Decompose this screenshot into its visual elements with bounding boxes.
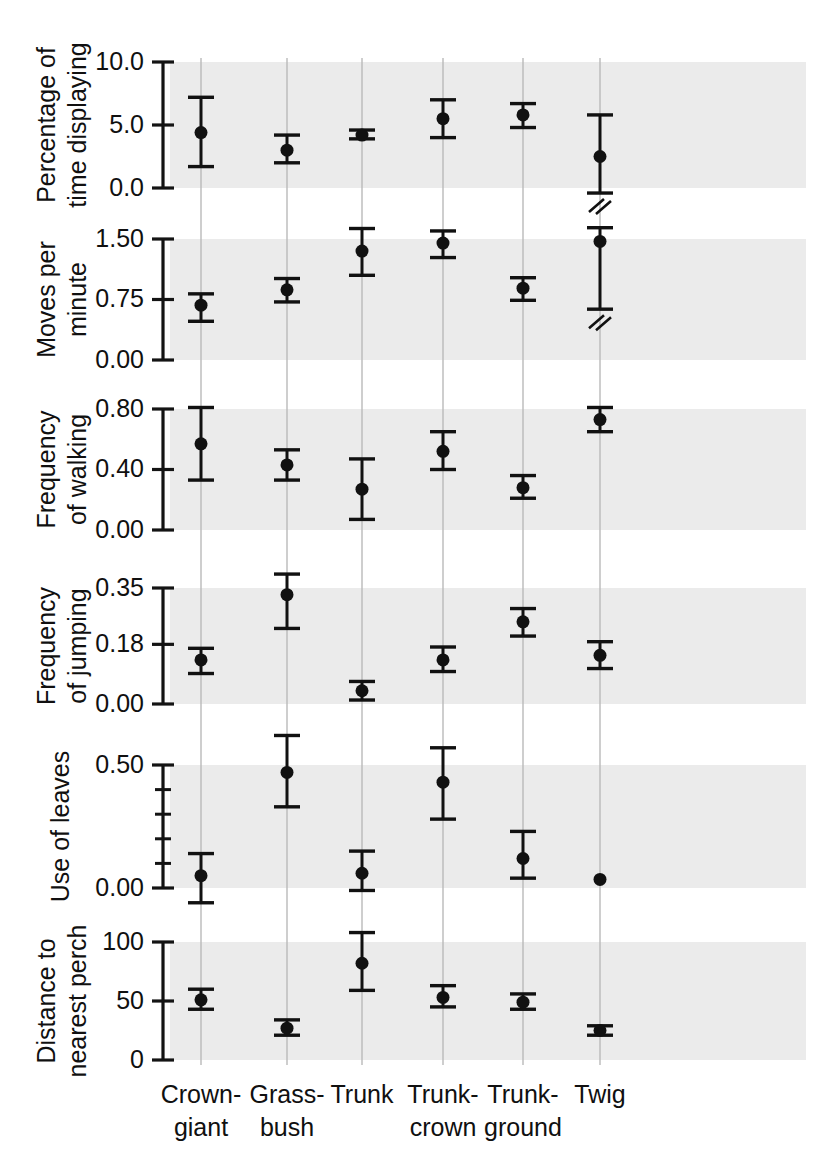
panel-1-point-trunk-ground-marker: [517, 282, 530, 295]
panel-3-point-trunk-marker: [356, 684, 369, 697]
panel-band-4: [170, 765, 806, 888]
panel-5-ylabel-line-1: nearest perch: [63, 925, 91, 1078]
panel-3-ylabel-line-0: Frequency: [32, 586, 60, 705]
panel-3-ytick-label-2: 0.35: [95, 573, 144, 601]
panel-4-ylabel-line-0: Use of leaves: [46, 751, 74, 902]
panel-4-ytick-label-1: 0.50: [95, 750, 144, 778]
panel-3-point-twig-marker: [594, 649, 607, 662]
panel-5-point-trunk-marker: [356, 957, 369, 970]
panel-1-point-trunk-marker: [356, 245, 369, 258]
panel-band-0: [170, 62, 806, 188]
panel-band-2: [170, 409, 806, 530]
panel-4-point-trunk-marker: [356, 867, 369, 880]
panel-1-ytick-label-0: 0.00: [95, 345, 144, 373]
panel-band-5: [170, 942, 806, 1060]
panel-1-ytick-label-2: 1.50: [95, 224, 144, 252]
panel-3-ytick-label-1: 0.18: [95, 629, 144, 657]
panel-2-ytick-label-1: 0.40: [95, 454, 144, 482]
panel-5-ytick-label-1: 50: [116, 986, 144, 1014]
panel-5-point-twig-marker: [594, 1024, 607, 1037]
xtick-label-trunk-line-0: Trunk: [331, 1080, 394, 1108]
panel-2-ytick-label-2: 0.80: [95, 394, 144, 422]
panel-4-ytick-label-0: 0.00: [95, 873, 144, 901]
panel-3-point-trunk-ground-marker: [517, 615, 530, 628]
panel-0-point-trunk-ground-marker: [517, 108, 530, 121]
panel-1-point-grass-bush-marker: [281, 283, 294, 296]
panel-5-ytick-label-2: 100: [102, 927, 144, 955]
panel-5-point-trunk-crown-marker: [437, 991, 450, 1004]
panel-1-ylabel-line-1: minute: [63, 262, 91, 337]
panel-0-point-trunk-marker: [356, 129, 369, 142]
xtick-label-trunk-ground-line-1: ground: [484, 1113, 562, 1141]
panel-5-point-grass-bush-marker: [281, 1022, 294, 1035]
panel-5-point-crown-giant-marker: [195, 993, 208, 1006]
panel-0-ytick-label-2: 10.0: [95, 47, 144, 75]
xtick-label-crown-giant-line-0: Crown-: [161, 1080, 242, 1108]
panel-2-point-trunk-ground-marker: [517, 481, 530, 494]
panel-5-point-trunk-ground-marker: [517, 996, 530, 1009]
panel-0-point-crown-giant-marker: [195, 126, 208, 139]
panel-0-ytick-label-0: 0.0: [109, 173, 144, 201]
panel-4-point-trunk-ground-marker: [517, 852, 530, 865]
xtick-label-grass-bush-line-0: Grass-: [250, 1080, 325, 1108]
panel-band-1: [170, 239, 806, 360]
xtick-label-crown-giant-line-1: giant: [174, 1113, 228, 1141]
xtick-label-trunk-ground-line-0: Trunk-: [487, 1080, 558, 1108]
chart-canvas: 0.05.010.0Percentage oftime displaying0.…: [0, 0, 837, 1173]
panel-1-point-crown-giant-marker: [195, 299, 208, 312]
panel-2-ylabel-line-0: Frequency: [32, 410, 60, 529]
panel-5-ytick-label-0: 0: [130, 1045, 144, 1073]
panel-0-ytick-label-1: 5.0: [109, 110, 144, 138]
panel-0-point-trunk-crown-marker: [437, 112, 450, 125]
panel-3-point-crown-giant-marker: [195, 653, 208, 666]
panel-0-ylabel-line-0: Percentage of: [32, 47, 60, 203]
panel-3-ylabel-line-1: of jumping: [63, 588, 91, 703]
panel-0-point-grass-bush-marker: [281, 144, 294, 157]
panel-2-point-trunk-crown-marker: [437, 445, 450, 458]
panel-4-point-twig-marker: [594, 873, 607, 886]
panel-2-point-trunk-marker: [356, 483, 369, 496]
panel-3-point-grass-bush-marker: [281, 588, 294, 601]
panel-band-3: [170, 588, 806, 704]
panel-2-point-crown-giant-marker: [195, 437, 208, 450]
panel-1-ylabel-line-0: Moves per: [32, 241, 60, 358]
xtick-label-twig-line-0: Twig: [574, 1080, 625, 1108]
panel-2-point-twig-marker: [594, 413, 607, 426]
panel-4-point-crown-giant-marker: [195, 869, 208, 882]
panel-0-ylabel-line-1: time displaying: [63, 42, 91, 207]
panel-2-ytick-label-0: 0.00: [95, 515, 144, 543]
panel-3-ytick-label-0: 0.00: [95, 689, 144, 717]
panel-1-point-trunk-crown-marker: [437, 237, 450, 250]
panel-2-point-grass-bush-marker: [281, 458, 294, 471]
xtick-label-trunk-crown-line-1: crown: [410, 1113, 477, 1141]
multi-panel-error-bar-figure: 0.05.010.0Percentage oftime displaying0.…: [0, 0, 837, 1173]
panel-3-point-trunk-crown-marker: [437, 653, 450, 666]
xtick-label-trunk-crown-line-0: Trunk-: [407, 1080, 478, 1108]
panel-1-ytick-label-1: 0.75: [95, 284, 144, 312]
xtick-label-grass-bush-line-1: bush: [260, 1113, 314, 1141]
panel-4-point-grass-bush-marker: [281, 766, 294, 779]
panel-2-ylabel-line-1: of walking: [63, 414, 91, 525]
panel-5-ylabel-line-0: Distance to: [32, 938, 60, 1063]
panel-0-point-twig-marker: [594, 150, 607, 163]
panel-1-point-twig-marker: [594, 235, 607, 248]
panel-4-point-trunk-crown-marker: [437, 776, 450, 789]
